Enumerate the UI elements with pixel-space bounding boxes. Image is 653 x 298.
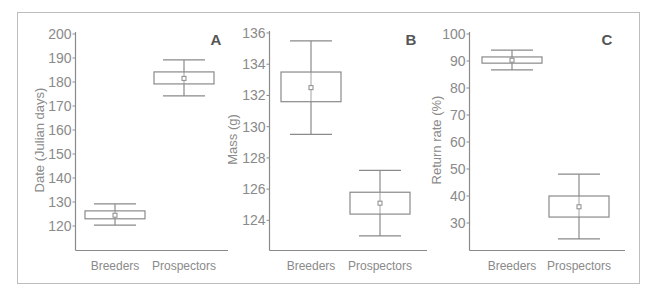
y-tick-label: 160: [48, 122, 72, 138]
panel-label: C: [602, 31, 613, 48]
x-category-label: Prospectors: [152, 259, 216, 273]
y-tick-label: 60: [450, 134, 466, 150]
x-category-label: Breeders: [488, 259, 537, 273]
y-tick-label: 200: [48, 26, 72, 42]
y-tick-label: 140: [48, 170, 72, 186]
panel-label: B: [406, 31, 417, 48]
figure-frame: [18, 13, 640, 284]
y-tick-label: 150: [48, 146, 72, 162]
y-tick-label: 130: [242, 119, 266, 135]
y-tick-label: 70: [450, 107, 466, 123]
panel-label: A: [211, 31, 222, 48]
mean-marker-icon: [113, 213, 117, 217]
figure: 120130140150160170180190200Date (Julian …: [0, 0, 653, 298]
y-tick-label: 134: [242, 56, 266, 72]
y-tick-label: 30: [450, 215, 466, 231]
y-tick-label: 124: [242, 212, 266, 228]
y-tick-label: 170: [48, 98, 72, 114]
y-tick-label: 40: [450, 188, 466, 204]
y-tick-label: 90: [450, 53, 466, 69]
x-category-label: Breeders: [91, 259, 140, 273]
y-tick-label: 136: [242, 25, 266, 41]
y-tick-label: 100: [442, 26, 466, 42]
mean-marker-icon: [378, 201, 382, 205]
y-tick-label: 50: [450, 161, 466, 177]
mean-marker-icon: [510, 58, 514, 62]
y-tick-label: 80: [450, 80, 466, 96]
x-category-label: Prospectors: [547, 259, 611, 273]
y-tick-label: 126: [242, 181, 266, 197]
y-tick-label: 180: [48, 74, 72, 90]
y-tick-label: 132: [242, 87, 266, 103]
y-axis-title: Return rate (%): [429, 96, 444, 185]
y-axis-title: Date (Julian days): [32, 88, 47, 193]
mean-marker-icon: [577, 205, 581, 209]
y-tick-label: 120: [48, 218, 72, 234]
mean-marker-icon: [309, 86, 313, 90]
y-axis-title: Mass (g): [225, 114, 240, 165]
y-tick-label: 190: [48, 50, 72, 66]
mean-marker-icon: [182, 76, 186, 80]
x-category-label: Prospectors: [348, 259, 412, 273]
y-tick-label: 130: [48, 194, 72, 210]
y-tick-label: 128: [242, 150, 266, 166]
x-category-label: Breeders: [287, 259, 336, 273]
